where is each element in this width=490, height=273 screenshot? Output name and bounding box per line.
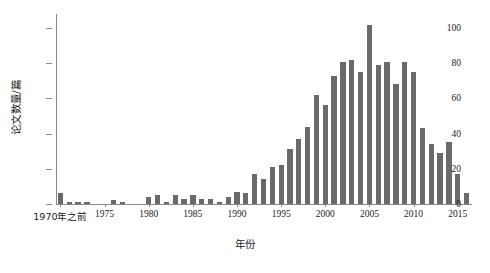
x-tick-mark bbox=[414, 204, 415, 207]
bar bbox=[349, 60, 354, 204]
x-tick-mark bbox=[60, 204, 61, 207]
bar bbox=[217, 202, 222, 204]
x-tick-label: 1970年之前 bbox=[33, 209, 87, 223]
x-axis-line bbox=[56, 204, 472, 205]
x-tick-label: 1980 bbox=[139, 209, 158, 219]
x-tick-label: 1995 bbox=[272, 209, 291, 219]
bar bbox=[464, 193, 469, 204]
x-tick-label: 2015 bbox=[448, 209, 467, 219]
bar bbox=[393, 84, 398, 204]
bar bbox=[261, 179, 266, 204]
bar bbox=[402, 62, 407, 205]
bar bbox=[190, 195, 195, 204]
x-tick-label: 1990 bbox=[228, 209, 247, 219]
bar bbox=[376, 65, 381, 204]
y-tick-mark bbox=[46, 98, 52, 99]
y-tick-label: 20 bbox=[452, 164, 462, 174]
bar bbox=[331, 76, 336, 204]
y-tick-label: 100 bbox=[447, 23, 461, 33]
x-tick-mark bbox=[325, 204, 326, 207]
y-tick-label: 60 bbox=[452, 93, 462, 103]
bar bbox=[420, 128, 425, 204]
bar bbox=[340, 62, 345, 205]
bar bbox=[67, 202, 72, 204]
x-tick-mark bbox=[369, 204, 370, 207]
bar bbox=[146, 197, 151, 204]
y-axis-title: 论文数量/篇 bbox=[4, 0, 26, 215]
x-tick-label: 2000 bbox=[316, 209, 335, 219]
bar bbox=[367, 25, 372, 204]
chart-figure: 论文数量/篇 020406080100 1970年之前1975198019851… bbox=[0, 0, 490, 273]
bar bbox=[111, 200, 116, 204]
bar bbox=[287, 149, 292, 204]
x-tick-mark bbox=[237, 204, 238, 207]
bar bbox=[75, 202, 80, 204]
x-axis-title: 年份 bbox=[0, 236, 490, 251]
bar bbox=[58, 193, 63, 204]
bar bbox=[243, 193, 248, 204]
bar bbox=[437, 153, 442, 204]
x-tick-mark bbox=[193, 204, 194, 207]
bar bbox=[208, 199, 213, 204]
bar bbox=[323, 105, 328, 204]
x-tick-mark bbox=[149, 204, 150, 207]
x-tick-mark bbox=[281, 204, 282, 207]
y-tick-mark bbox=[46, 28, 52, 29]
bar bbox=[314, 95, 319, 204]
x-tick-label: 1975 bbox=[95, 209, 114, 219]
bar bbox=[234, 192, 239, 204]
x-tick-label: 1985 bbox=[183, 209, 202, 219]
x-tick-mark bbox=[458, 204, 459, 207]
bar bbox=[199, 199, 204, 204]
bar bbox=[252, 174, 257, 204]
bar bbox=[296, 139, 301, 204]
y-tick-label: 80 bbox=[452, 58, 462, 68]
bar bbox=[411, 72, 416, 204]
x-tick-mark bbox=[105, 204, 106, 207]
bar bbox=[155, 195, 160, 204]
y-tick-mark bbox=[46, 169, 52, 170]
bar bbox=[384, 62, 389, 205]
plot-area: 020406080100 1970年之前19751980198519901995… bbox=[56, 14, 471, 204]
bar bbox=[270, 167, 275, 204]
bar bbox=[84, 202, 89, 204]
y-tick-mark bbox=[46, 63, 52, 64]
bar bbox=[173, 195, 178, 204]
bar bbox=[358, 72, 363, 204]
bar bbox=[120, 202, 125, 204]
bar bbox=[305, 127, 310, 204]
bar bbox=[164, 202, 169, 204]
y-tick-mark bbox=[46, 204, 52, 205]
x-tick-label: 2010 bbox=[404, 209, 423, 219]
x-axis-title-text: 年份 bbox=[235, 236, 255, 251]
y-tick-mark bbox=[46, 134, 52, 135]
y-tick-label: 40 bbox=[452, 129, 462, 139]
y-axis-title-text: 论文数量/篇 bbox=[8, 80, 23, 135]
bar bbox=[279, 165, 284, 204]
x-tick-label: 2005 bbox=[360, 209, 379, 219]
bar bbox=[181, 199, 186, 204]
bar bbox=[226, 197, 231, 204]
bar bbox=[429, 144, 434, 204]
